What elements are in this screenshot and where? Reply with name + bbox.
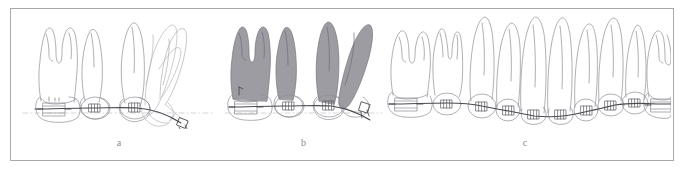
tooth-c-4-lateral-incisor-left (496, 23, 520, 121)
panel-b-illustration (221, 9, 386, 129)
tooth-c-7-lateral-incisor-right (574, 24, 598, 121)
archwire-a (35, 108, 181, 123)
tooth-premolar-a (80, 29, 110, 119)
panel-c: c (379, 9, 671, 162)
figure-container: a (0, 0, 685, 170)
panel-a: a (19, 9, 219, 162)
band-c-1 (395, 98, 417, 111)
tooth-c-3-canine-left (468, 17, 496, 118)
band-c-10 (651, 99, 671, 112)
tooth-shading-tipped-molar-b (339, 25, 373, 109)
tooth-shading-molar-b (231, 27, 270, 101)
tooth-c-10-molar-right (644, 31, 671, 119)
tooth-c-5-central-incisor-left (521, 17, 546, 124)
tooth-canine-a (119, 23, 150, 122)
distal-attachment-a (177, 118, 188, 129)
tooth-shading-canine-b (316, 22, 339, 104)
panel-c-illustration (379, 9, 671, 129)
panel-a-illustration (19, 9, 219, 129)
bracket-c-2 (441, 100, 452, 108)
tooth-tipped-molar-b (339, 25, 373, 118)
panel-b-caption: b (221, 138, 386, 148)
tooth-premolar-b (274, 27, 304, 117)
panel-a-caption: a (19, 138, 219, 148)
bracket-c-6 (555, 110, 566, 119)
tooth-c-6-central-incisor-right (548, 18, 573, 124)
tooth-c-8-canine-right (598, 18, 624, 116)
bracket-c-5 (528, 110, 539, 119)
figure-frame: a (10, 8, 674, 161)
bracket-tipped-molar-b (359, 102, 370, 118)
tooth-c-9-premolar-right (622, 25, 648, 114)
panel-c-caption: c (379, 138, 671, 148)
tooth-c-2-premolar-left (433, 29, 463, 115)
panel-b: b (221, 9, 386, 162)
